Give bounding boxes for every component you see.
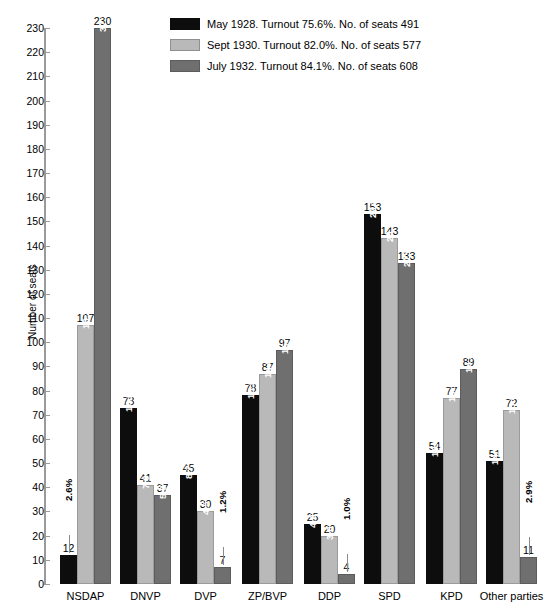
y-tick-label: 40 bbox=[32, 487, 44, 497]
bar-chart: Number of seats 010203040506070809010011… bbox=[0, 0, 550, 613]
bar[interactable] bbox=[214, 567, 231, 584]
bar-group: 458.7%304.5%71.2% bbox=[180, 20, 231, 584]
legend-swatch bbox=[170, 18, 200, 30]
y-tick-label: 230 bbox=[26, 28, 44, 38]
bar-percent-label: 5.9% bbox=[157, 476, 168, 498]
y-tick-label: 170 bbox=[26, 173, 44, 183]
bar-percent-label: 4.5% bbox=[200, 493, 211, 515]
bar-percent-label: 15.7% bbox=[279, 326, 290, 354]
bar[interactable] bbox=[137, 485, 154, 584]
label-leader-line bbox=[69, 535, 70, 553]
bar[interactable] bbox=[364, 214, 381, 584]
y-tick-label: 140 bbox=[26, 246, 44, 256]
bar[interactable] bbox=[197, 511, 214, 584]
bar-percent-label: 24.5% bbox=[384, 215, 395, 243]
legend-item[interactable]: May 1928. Turnout 75.6%. No. of seats 49… bbox=[170, 18, 421, 30]
plot-area: 122.6%10718.3%23037.3%7314.2%417.0%375.9… bbox=[46, 20, 546, 584]
y-tick-label: 10 bbox=[32, 560, 44, 570]
bar-group: 5114.0%7213.8%112.9% bbox=[486, 20, 537, 584]
bar-percent-label: 37.3% bbox=[97, 4, 108, 32]
bar-percent-label: 14.0% bbox=[489, 437, 500, 465]
bar[interactable] bbox=[426, 453, 443, 584]
bar[interactable] bbox=[321, 536, 338, 584]
y-tick-label: 160 bbox=[26, 197, 44, 207]
bar[interactable] bbox=[120, 408, 137, 584]
y-tick-label: 210 bbox=[26, 76, 44, 86]
label-leader-line bbox=[347, 554, 348, 572]
bar[interactable] bbox=[338, 574, 355, 584]
y-tick-label: 90 bbox=[32, 366, 44, 376]
bar-group: 7815.2%8714.8%9715.7% bbox=[242, 20, 293, 584]
bar[interactable] bbox=[520, 557, 537, 584]
legend-item[interactable]: Sept 1930. Turnout 82.0%. No. of seats 5… bbox=[170, 39, 421, 51]
legend-swatch bbox=[170, 60, 200, 72]
legend-item[interactable]: July 1932. Turnout 84.1%. No. of seats 6… bbox=[170, 60, 421, 72]
bar-percent-label: 18.3% bbox=[80, 302, 91, 330]
bar[interactable] bbox=[486, 461, 503, 584]
y-tick-label: 100 bbox=[26, 342, 44, 352]
legend-label: July 1932. Turnout 84.1%. No. of seats 6… bbox=[207, 60, 418, 72]
y-tick-label: 50 bbox=[32, 463, 44, 473]
bar[interactable] bbox=[460, 369, 477, 584]
bar[interactable] bbox=[259, 374, 276, 584]
y-tick-label: 180 bbox=[26, 149, 44, 159]
y-tick-label: 200 bbox=[26, 101, 44, 111]
bar[interactable] bbox=[60, 555, 77, 584]
bar-group: 15329.8%14324.5%13321.6% bbox=[364, 20, 415, 584]
bar-percent-label: 10.8% bbox=[429, 430, 440, 458]
bar-percent-label: 1.2% bbox=[217, 491, 228, 513]
legend-label: Sept 1930. Turnout 82.0%. No. of seats 5… bbox=[207, 39, 421, 51]
bar-percent-label: 13.1% bbox=[446, 374, 457, 402]
y-tick-label: 150 bbox=[26, 221, 44, 231]
chart-legend: May 1928. Turnout 75.6%. No. of seats 49… bbox=[170, 18, 421, 81]
bar[interactable] bbox=[94, 28, 111, 584]
y-tick-label: 30 bbox=[32, 511, 44, 521]
bar[interactable] bbox=[381, 238, 398, 584]
label-leader-line bbox=[223, 547, 224, 565]
bar-percent-label: 29.8% bbox=[367, 190, 378, 218]
bar[interactable] bbox=[77, 325, 94, 584]
y-tick-label: 80 bbox=[32, 391, 44, 401]
y-tick-label: 120 bbox=[26, 294, 44, 304]
bar-percent-label: 1.0% bbox=[341, 498, 352, 520]
bar-percent-label: 15.2% bbox=[245, 372, 256, 400]
bar-group: 7314.2%417.0%375.9% bbox=[120, 20, 171, 584]
bar[interactable] bbox=[180, 475, 197, 584]
y-tick-label: 190 bbox=[26, 125, 44, 135]
bar-percent-label: 8.7% bbox=[183, 457, 194, 479]
bar[interactable] bbox=[503, 410, 520, 584]
y-tick-label: 60 bbox=[32, 439, 44, 449]
x-axis-label: Other parties bbox=[462, 590, 550, 602]
bar[interactable] bbox=[242, 395, 259, 584]
bar[interactable] bbox=[276, 350, 293, 584]
bar-percent-label: 14.2% bbox=[123, 384, 134, 412]
bar-percent-label: 14.8% bbox=[262, 350, 273, 378]
bar[interactable] bbox=[443, 398, 460, 584]
y-tick-label: 130 bbox=[26, 270, 44, 280]
y-tick bbox=[44, 584, 50, 585]
y-tick-label: 70 bbox=[32, 415, 44, 425]
y-tick-label: 220 bbox=[26, 52, 44, 62]
legend-swatch bbox=[170, 39, 200, 51]
bar-group: 122.6%10718.3%23037.3% bbox=[60, 20, 111, 584]
bar-percent-label: 3.8% bbox=[324, 517, 335, 539]
bar-percent-label: 14.3% bbox=[463, 345, 474, 373]
bar-percent-label: 13.8% bbox=[506, 386, 517, 414]
bar-percent-label: 2.6% bbox=[63, 479, 74, 501]
bar-percent-label: 21.6% bbox=[401, 239, 412, 267]
bar-percent-label: 2.9% bbox=[523, 481, 534, 503]
bar-group: 5410.8%7713.1%8914.3% bbox=[426, 20, 477, 584]
y-tick-label: 110 bbox=[27, 318, 44, 328]
bar-group: 254.9%203.8%41.0% bbox=[304, 20, 355, 584]
y-tick-label: 20 bbox=[32, 536, 44, 546]
legend-label: May 1928. Turnout 75.6%. No. of seats 49… bbox=[207, 18, 419, 30]
bar[interactable] bbox=[154, 495, 171, 584]
label-leader-line bbox=[529, 537, 530, 555]
bar[interactable] bbox=[398, 263, 415, 585]
